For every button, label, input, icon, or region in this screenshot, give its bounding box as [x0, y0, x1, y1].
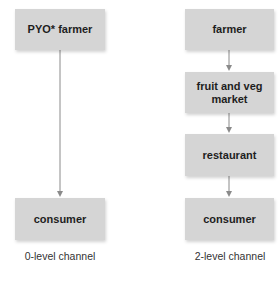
channel-label-0-level: 0-level channel: [10, 250, 110, 262]
node-pyo-farmer: PYO* farmer: [15, 9, 105, 50]
node-consumer-0-level: consumer: [15, 198, 105, 240]
arrow-pyo-to-consumer: [57, 50, 63, 197]
arrow-market-to-restaurant: [226, 113, 232, 133]
node-label: fruit and veg market: [195, 80, 265, 106]
channel-label-2-level: 2-level channel: [180, 250, 280, 262]
arrow-restaurant-to-consumer: [226, 176, 232, 197]
node-label: PYO* farmer: [28, 23, 93, 36]
node-label: consumer: [203, 213, 256, 226]
node-restaurant: restaurant: [185, 134, 274, 176]
node-farmer: farmer: [185, 9, 274, 50]
arrow-farmer-to-market: [226, 50, 232, 71]
node-consumer-2-level: consumer: [185, 198, 274, 240]
node-fruit-and-veg-market: fruit and veg market: [185, 72, 274, 113]
node-label: farmer: [212, 23, 246, 36]
node-label: consumer: [34, 213, 87, 226]
node-label: restaurant: [203, 149, 257, 162]
